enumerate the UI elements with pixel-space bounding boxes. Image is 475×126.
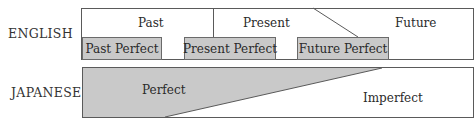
row-label-english: ENGLISH xyxy=(8,26,73,41)
tense-label-future: Future xyxy=(395,16,436,30)
present-perfect-box: Present Perfect xyxy=(184,37,276,60)
tense-label-present: Present xyxy=(243,16,290,30)
present-future-divider xyxy=(313,8,358,37)
region-label-perfect: Perfect xyxy=(142,83,185,97)
row-label-japanese: JAPANESE xyxy=(11,85,81,100)
region-label-imperfect: Imperfect xyxy=(363,91,423,105)
past-perfect-box: Past Perfect xyxy=(82,37,162,60)
tense-label-past: Past xyxy=(138,16,164,30)
future-perfect-box: Future Perfect xyxy=(297,37,389,60)
